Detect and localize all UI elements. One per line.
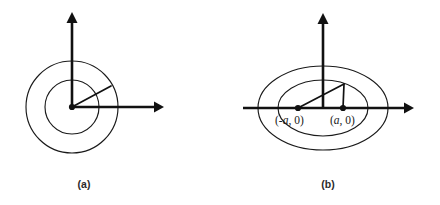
figure-root: (a) (-a, 0) (a, 0) ( bbox=[0, 0, 440, 205]
caption-panel-a: (a) bbox=[78, 178, 91, 190]
y-axis-arrow-b-icon bbox=[318, 13, 329, 24]
left-focus-dot bbox=[295, 105, 301, 111]
right-focal-radius bbox=[343, 84, 344, 108]
panel-a: (a) bbox=[26, 12, 164, 190]
left-focus-label: (-a, 0) bbox=[275, 114, 304, 127]
left-focus-label-suffix: , 0) bbox=[288, 114, 304, 127]
x-axis-arrow-b-icon bbox=[404, 103, 414, 114]
origin-dot-a bbox=[69, 104, 75, 110]
left-focus-label-prefix: (- bbox=[275, 114, 283, 127]
right-focus-label-suffix: , 0) bbox=[340, 114, 356, 127]
left-focal-radius bbox=[298, 84, 344, 108]
panel-b: (-a, 0) (a, 0) (b) bbox=[243, 13, 414, 190]
figure-canvas: (a) (-a, 0) (a, 0) ( bbox=[0, 0, 440, 205]
caption-panel-b: (b) bbox=[321, 178, 334, 190]
right-focus-dot bbox=[340, 105, 346, 111]
y-axis-arrow-a-icon bbox=[67, 12, 78, 23]
right-focus-label: (a, 0) bbox=[330, 114, 355, 127]
x-axis-arrow-a-icon bbox=[154, 102, 164, 113]
